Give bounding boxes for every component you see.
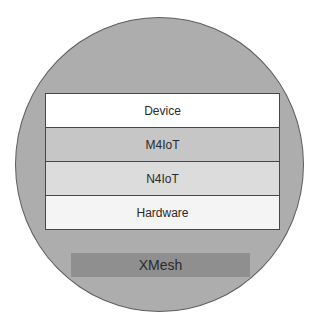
layer-n4iot: N4IoT xyxy=(46,162,279,196)
layer-label: Hardware xyxy=(136,206,188,220)
layer-label: M4IoT xyxy=(145,138,179,152)
layer-label: N4IoT xyxy=(146,172,179,186)
xmesh-label: XMesh xyxy=(139,257,183,273)
layer-hardware: Hardware xyxy=(46,196,279,229)
xmesh-base-bar: XMesh xyxy=(71,253,250,277)
layer-label: Device xyxy=(144,104,181,118)
layer-device: Device xyxy=(46,94,279,128)
layer-m4iot: M4IoT xyxy=(46,128,279,162)
layer-stack: Device M4IoT N4IoT Hardware xyxy=(45,93,280,230)
